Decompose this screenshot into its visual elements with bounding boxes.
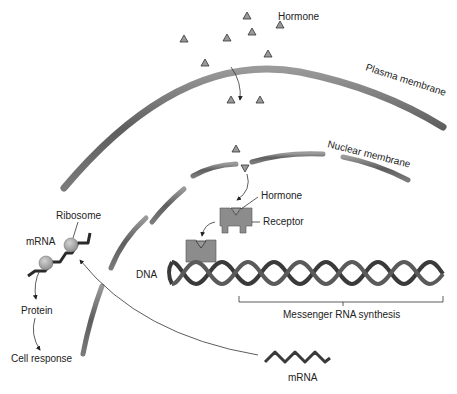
receptor-with-hormone (220, 208, 252, 233)
nuclear-membrane (83, 154, 408, 354)
mrna-synthesis-bracket (239, 296, 443, 306)
hormone-label-receptor: Hormone (261, 190, 303, 201)
protein-label: Protein (21, 305, 53, 316)
ribosome-leader-line (73, 222, 78, 238)
ribosome-label: Ribosome (56, 210, 101, 221)
hormone-label-top: Hormone (278, 11, 320, 22)
dna-label: DNA (136, 269, 157, 280)
pore-to-receptor-arrow (237, 174, 248, 200)
hormone-at-nuclear-pore (241, 165, 249, 172)
hormone-action-diagram: Plasma membrane Hormone Nuclear membr (0, 0, 457, 394)
mrna-label-left: mRNA (26, 236, 56, 247)
receptor-bound-to-dna (186, 240, 216, 262)
receptor-label: Receptor (263, 216, 304, 227)
dna-double-helix (169, 262, 443, 284)
mrna-synthesis-label: Messenger RNA synthesis (283, 309, 400, 320)
cell-response-label: Cell response (11, 353, 73, 364)
hormone-leader-line (241, 197, 258, 209)
mrna-label-bottom: mRNA (288, 372, 318, 383)
receptor-to-dna-arrow (202, 222, 215, 236)
ribosome-to-protein-arrow (35, 270, 40, 299)
ribosome-1 (39, 256, 53, 270)
ribosome-2 (64, 238, 78, 252)
protein-to-response-arrow (33, 318, 40, 350)
mrna-strand-nucleus (265, 352, 330, 362)
